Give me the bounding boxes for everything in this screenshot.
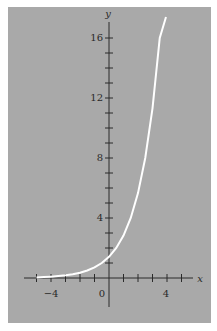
y-axis-label: y [104,8,111,19]
x-tick-label-4: 4 [163,288,169,299]
chart-svg: 0 −4 4 4 8 12 16 y x [0,0,217,331]
x-tick-label-neg4: −4 [44,288,59,299]
y-tick-label-8: 8 [97,152,103,163]
data-curve [37,17,166,277]
y-tick-label-16: 16 [90,32,103,43]
x-axis-label: x [197,273,203,284]
y-tick-label-12: 12 [90,92,103,103]
axes [24,22,193,307]
x-tick-label-0: 0 [99,288,105,299]
y-tick-label-4: 4 [97,212,103,223]
